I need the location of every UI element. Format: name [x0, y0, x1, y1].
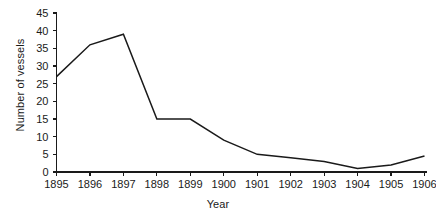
y-tick-label: 15: [36, 113, 48, 125]
y-axis-title: Number of vessels: [14, 10, 28, 160]
y-tick-label: 30: [36, 60, 48, 72]
y-tick-label: 25: [36, 78, 48, 90]
y-tick-label: 20: [36, 95, 48, 107]
x-tick-label: 1896: [78, 178, 102, 190]
x-tick-label: 1905: [379, 178, 403, 190]
x-tick-label: 1903: [312, 178, 336, 190]
y-tick-label: 10: [36, 131, 48, 143]
x-axis-ticks: 1895189618971898189919001901190219031904…: [44, 172, 436, 190]
y-tick-label: 40: [36, 25, 48, 37]
line-chart: 051015202530354045 189518961897189818991…: [0, 0, 436, 219]
x-tick-label: 1904: [345, 178, 369, 190]
data-series-line: [57, 34, 425, 168]
x-tick-label: 1898: [145, 178, 169, 190]
x-tick-label: 1899: [178, 178, 202, 190]
y-tick-label: 45: [36, 7, 48, 19]
plot-area: 051015202530354045 189518961897189818991…: [0, 0, 436, 219]
x-tick-label: 1902: [278, 178, 302, 190]
y-tick-label: 35: [36, 42, 48, 54]
x-tick-label: 1897: [111, 178, 135, 190]
y-tick-label: 0: [42, 166, 48, 178]
x-tick-label: 1906: [412, 178, 436, 190]
y-axis-ticks: 051015202530354045: [36, 7, 56, 178]
x-tick-label: 1895: [44, 178, 68, 190]
x-tick-label: 1901: [245, 178, 269, 190]
y-tick-label: 5: [42, 148, 48, 160]
x-axis-title: Year: [0, 198, 436, 210]
x-tick-label: 1900: [212, 178, 236, 190]
